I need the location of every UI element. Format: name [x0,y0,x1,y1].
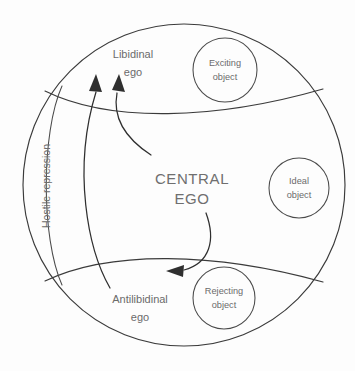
arrow-central-to-libidinal-path [116,93,151,155]
region-label-central-ego: CENTRAL EGO [155,170,229,207]
hostile-repression-label-group: Hostile repression [40,144,52,228]
exciting-object-circle [193,38,257,102]
arrow-central-to-antilibidinal-head [166,265,184,277]
rejecting-object-label-line1: Rejecting [205,286,243,296]
ideal-object-label-line1: Ideal [289,176,309,186]
antilibidinal-ego-label-line1: Antilibidinal [112,293,168,305]
endopsychic-structure-diagram: Libidinal ego CENTRAL EGO Antilibidinal … [0,0,355,371]
ideal-object-label-line2: object [287,190,312,200]
antilibidinal-ego-label-line2: ego [131,311,149,323]
exciting-object-label-line1: Exciting [209,58,241,68]
ideal-object-circle [269,158,329,218]
divider-arc-upper [45,89,323,114]
arrow-central-to-antilibidinal-path [184,213,211,270]
arrow-antilibidinal-to-libidinal-path [84,92,110,288]
central-ego-label-line2: EGO [174,190,209,207]
exciting-object-label-line2: object [213,72,238,82]
rejecting-object-circle [193,267,255,329]
libidinal-ego-label-line2: ego [124,66,142,78]
rejecting-object-label-line2: object [212,300,237,310]
diagram-canvas: Libidinal ego CENTRAL EGO Antilibidinal … [0,0,355,371]
object-label-rejecting: Rejecting object [205,286,243,310]
central-ego-label-line1: CENTRAL [155,170,229,187]
libidinal-ego-label-line1: Libidinal [113,48,153,60]
arrow-antilibidinal-to-libidinal-head [89,74,102,92]
object-label-ideal: Ideal object [287,176,312,200]
region-label-antilibidinal-ego: Antilibidinal ego [112,293,168,323]
object-label-exciting: Exciting object [209,58,241,82]
region-label-libidinal-ego: Libidinal ego [113,48,153,78]
hostile-repression-label: Hostile repression [40,144,52,228]
